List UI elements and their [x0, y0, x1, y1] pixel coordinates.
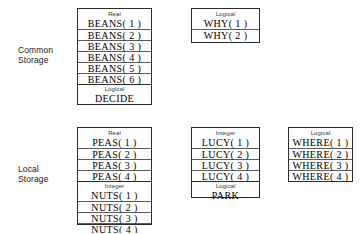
memory-slot: BEANS( 6 ) [78, 73, 151, 84]
memory-box-local-where: LogicalWHERE( 1 )WHERE( 2 )WHERE( 3 )WHE… [288, 127, 353, 182]
memory-slot: WHY( 1 ) [192, 18, 259, 29]
type-group-logical: LogicalPARK [192, 181, 259, 202]
memory-slot: NUTS( 3 ) [78, 212, 151, 223]
memory-slot: DECIDE [78, 93, 151, 104]
memory-slot: WHY( 2 ) [192, 29, 259, 40]
type-group-real: RealPEAS( 1 )PEAS( 2 )PEAS( 3 )PEAS( 4 ) [78, 128, 151, 181]
memory-box-common-why: LogicalWHY( 1 )WHY( 2 ) [191, 8, 260, 43]
type-caption: Real [78, 9, 151, 18]
memory-slot: LUCY( 2 ) [192, 148, 259, 159]
type-group-integer: IntegerLUCY( 1 )LUCY( 2 )LUCY( 3 )LUCY( … [192, 128, 259, 181]
type-caption: Logical [192, 9, 259, 18]
type-caption: Logical [289, 128, 352, 137]
memory-slot: WHERE( 4 ) [289, 170, 352, 181]
type-group-logical: LogicalWHY( 1 )WHY( 2 ) [192, 9, 259, 40]
type-caption: Real [78, 128, 151, 137]
memory-slot: NUTS( 4 ) [78, 223, 151, 233]
memory-slot: PEAS( 2 ) [78, 148, 151, 159]
memory-slot: BEANS( 2 ) [78, 29, 151, 40]
section-label-common-storage: Common Storage [18, 45, 53, 65]
type-group-integer: IntegerNUTS( 1 )NUTS( 2 )NUTS( 3 )NUTS( … [78, 181, 151, 234]
memory-slot: PARK [192, 190, 259, 201]
memory-slot: PEAS( 3 ) [78, 159, 151, 170]
type-caption: Integer [78, 182, 151, 191]
memory-box-local-lucy: IntegerLUCY( 1 )LUCY( 2 )LUCY( 3 )LUCY( … [191, 127, 260, 198]
memory-slot: LUCY( 3 ) [192, 159, 259, 170]
memory-slot: BEANS( 5 ) [78, 62, 151, 73]
type-caption: Logical [192, 182, 259, 191]
memory-slot: PEAS( 1 ) [78, 137, 151, 148]
type-caption: Integer [192, 128, 259, 137]
memory-slot: WHERE( 3 ) [289, 159, 352, 170]
memory-slot: WHERE( 2 ) [289, 148, 352, 159]
type-group-logical: LogicalDECIDE [78, 84, 151, 105]
storage-layout-diagram: Common StorageRealBEANS( 1 )BEANS( 2 )BE… [0, 0, 363, 233]
memory-slot: NUTS( 2 ) [78, 201, 151, 212]
memory-box-local-peas-nuts: RealPEAS( 1 )PEAS( 2 )PEAS( 3 )PEAS( 4 )… [77, 127, 152, 225]
memory-slot: PEAS( 4 ) [78, 170, 151, 181]
type-group-logical: LogicalWHERE( 1 )WHERE( 2 )WHERE( 3 )WHE… [289, 128, 352, 181]
memory-slot: NUTS( 1 ) [78, 190, 151, 201]
memory-slot: LUCY( 4 ) [192, 170, 259, 181]
type-group-real: RealBEANS( 1 )BEANS( 2 )BEANS( 3 )BEANS(… [78, 9, 151, 84]
memory-slot: LUCY( 1 ) [192, 137, 259, 148]
memory-slot: WHERE( 1 ) [289, 137, 352, 148]
memory-slot: BEANS( 1 ) [78, 18, 151, 29]
memory-slot: BEANS( 3 ) [78, 40, 151, 51]
memory-box-common-beans: RealBEANS( 1 )BEANS( 2 )BEANS( 3 )BEANS(… [77, 8, 152, 105]
memory-slot: BEANS( 4 ) [78, 51, 151, 62]
section-label-local-storage: Local Storage [18, 164, 48, 184]
type-caption: Logical [78, 85, 151, 94]
